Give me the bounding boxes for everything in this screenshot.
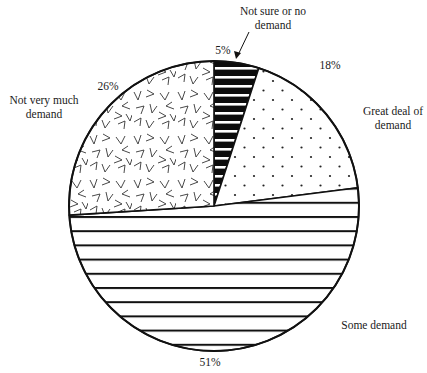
label-great-deal-line1: Great deal of <box>358 104 427 118</box>
pie-slices <box>69 61 359 351</box>
pct-not-very-much: 26% <box>88 79 128 93</box>
label-not-sure-line1: Not sure or no <box>228 4 318 18</box>
arrow-line <box>238 32 249 55</box>
label-not-very-much-line1: Not very much <box>4 93 84 107</box>
label-not-sure: Not sure or no demand <box>228 4 318 32</box>
pct-some-demand: 51% <box>190 355 230 369</box>
label-not-very-much-line2: demand <box>4 107 84 121</box>
label-not-very-much: Not very much demand <box>4 93 84 121</box>
label-great-deal-line2: demand <box>358 118 427 132</box>
arrow-head-icon <box>234 51 241 59</box>
label-some-demand: Some demand <box>334 318 414 332</box>
pct-great-deal: 18% <box>310 58 350 72</box>
label-great-deal: Great deal of demand <box>358 104 427 132</box>
pct-not-sure: 5% <box>211 43 235 57</box>
label-not-sure-line2: demand <box>228 18 318 32</box>
